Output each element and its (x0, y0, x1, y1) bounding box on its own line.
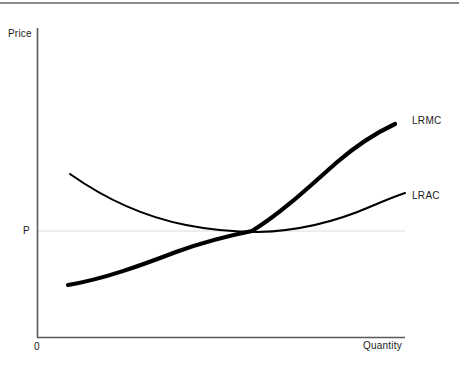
price-tick-label: P (23, 225, 30, 236)
origin-label: 0 (34, 341, 40, 352)
lrac-curve (70, 174, 405, 232)
lrac-curve-label: LRAC (412, 190, 440, 201)
lrmc-curve-label: LRMC (412, 115, 442, 126)
x-axis-label: Quantity (363, 340, 402, 351)
plot-area (0, 0, 459, 367)
cost-curves-figure: Price Quantity 0 P LRMC LRAC (0, 0, 459, 367)
y-axis-label: Price (8, 28, 32, 39)
lrmc-curve (68, 124, 395, 285)
